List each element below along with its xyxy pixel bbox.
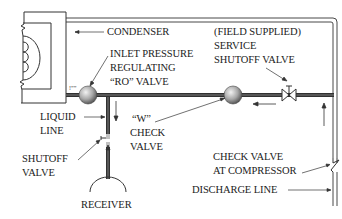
label-liquid-line-line1: LIQUID (40, 111, 76, 124)
ro-valve (79, 86, 97, 104)
label-field-supplied-line3: SHUTOFF VALVE (214, 54, 295, 67)
condenser-coil-loops (23, 42, 28, 72)
label-shutoff-line2: VALVE (22, 167, 55, 180)
receiver (90, 177, 126, 192)
receiver-pipe-lower (106, 147, 110, 179)
label-field-supplied-line1: (FIELD SUPPLIED) (214, 26, 301, 39)
label-w-check-line2: CHECK (130, 127, 165, 140)
label-check-valve-compressor-line1: CHECK VALVE (213, 151, 283, 164)
service-shutoff-valve (282, 86, 296, 101)
label-condenser: CONDENSER (107, 26, 169, 39)
receiver-pipe-upper (106, 97, 110, 134)
label-w-check-line1: “W” (132, 113, 151, 126)
port-mark: !”” (69, 85, 77, 91)
shutoff-valve (101, 136, 106, 140)
w-check-valve (224, 86, 242, 104)
condenser-outlet-stub (66, 93, 80, 97)
label-inlet-pressure-line3: “RO” VALVE (110, 76, 169, 89)
label-field-supplied-line2: SERVICE (214, 40, 256, 53)
label-inlet-pressure-line2: REGULATING (110, 62, 176, 75)
label-inlet-pressure-line1: INLET PRESSURE (110, 48, 193, 61)
label-discharge-line: DISCHARGE LINE (192, 184, 277, 197)
label-shutoff-line1: SHUTOFF (22, 153, 68, 166)
label-liquid-line-line2: LINE (40, 125, 64, 138)
label-w-check-line3: VALVE (130, 141, 163, 154)
condenser (20, 12, 66, 103)
label-receiver: RECEIVER (81, 199, 132, 212)
compressor-check-valve (331, 158, 339, 172)
label-check-valve-compressor-line2: AT COMPRESSOR (213, 165, 296, 178)
